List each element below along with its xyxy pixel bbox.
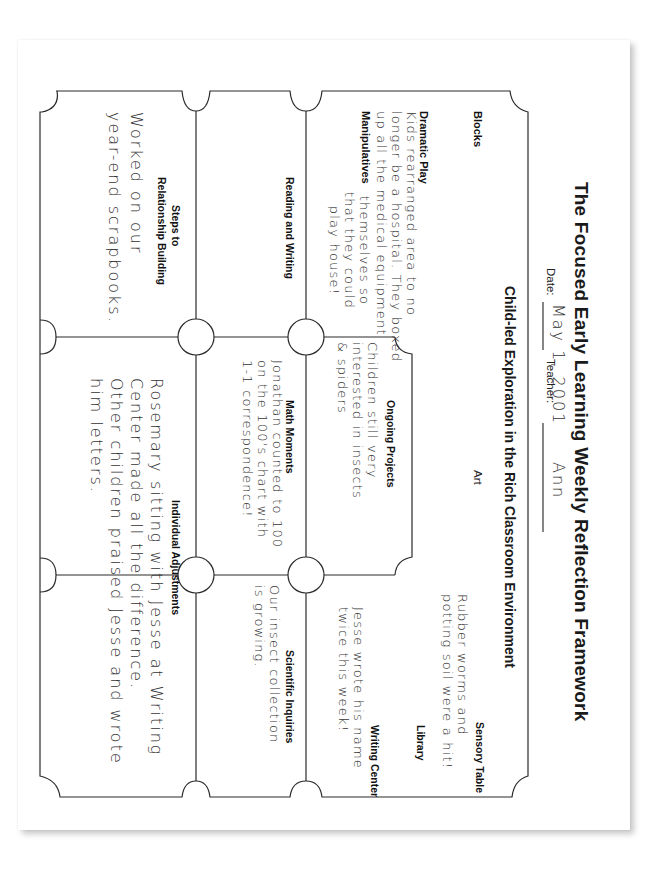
section-math-moments-note[interactable]: Jonathan counted to 100 on the 100's cha… (240, 360, 285, 548)
section-scientific-inquiries-note[interactable]: Our insect collection is growing. (252, 585, 282, 744)
section-art-heading: Art (472, 470, 484, 485)
teacher-value[interactable]: Ann (551, 462, 566, 499)
section-math-moments-heading: Math Moments (284, 400, 296, 474)
section-manipulatives-heading: Manipulatives (360, 111, 372, 184)
section-blocks-heading: Blocks (472, 111, 484, 147)
section-manipulatives-note[interactable]: themselves so that they could play house… (327, 192, 372, 309)
date-label: Date: (545, 268, 557, 296)
section-scientific-inquiries-heading: Scientific Inquiries (284, 650, 296, 743)
section-library-heading: Library (415, 725, 427, 761)
section-individual-adjustments-note[interactable]: Rosemary sitting with Jesse at Writing C… (86, 378, 166, 765)
section-relationship-building-heading-1: Steps to (170, 205, 182, 246)
section-writing-center-note[interactable]: Jesse wrote his name twice this week! (336, 607, 366, 769)
section-ongoing-projects-note[interactable]: Children still very interested in insect… (335, 342, 380, 499)
section-dramatic-play-note[interactable]: Kids rearranged area to no longer be a h… (374, 111, 419, 362)
section-sensory-table-note[interactable]: Rubber worms and potting soil were a hit… (440, 594, 470, 769)
section-sensory-table-heading: Sensory Table (474, 722, 486, 793)
section-reading-writing-heading: Reading and Writing (284, 177, 296, 279)
section-relationship-building-heading-2: Relationship Building (156, 177, 168, 285)
section-dramatic-play-heading: Dramatic Play (418, 111, 430, 184)
page-subtitle: Child-led Exploration in the Rich Classr… (502, 286, 518, 668)
section-ongoing-projects-heading: Ongoing Projects (385, 400, 397, 488)
page-title: The Focused Early Learning Weekly Reflec… (570, 182, 592, 721)
teacher-label: Teacher: (545, 359, 557, 403)
section-writing-center-heading: Writing Center (369, 725, 381, 797)
section-individual-adjustments-heading: Individual Adjustments (170, 500, 182, 615)
section-relationship-building-note[interactable]: Worked on our year-end scrapbooks. (103, 112, 147, 324)
